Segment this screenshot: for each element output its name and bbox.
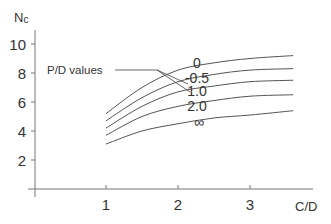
- y-axis-title: Nc: [14, 10, 28, 25]
- x-tick-label: 2: [174, 196, 182, 213]
- curve-label-1.0: 1.0: [187, 83, 207, 99]
- nc-vs-cd-chart: Nc C/D 2 4 6 8 10 1 2 3 P/D value: [0, 0, 331, 224]
- y-tick-label: 8: [18, 65, 26, 82]
- curve-label-2.0: 2.0: [187, 98, 207, 114]
- x-axis-title: C/D: [295, 199, 317, 214]
- legend-title: P/D values: [47, 64, 103, 76]
- y-tick-label: 2: [18, 152, 26, 169]
- y-ticks: 2 4 6 8 10: [9, 36, 35, 169]
- y-tick-label: 4: [18, 123, 26, 140]
- x-tick-label: 1: [102, 196, 110, 213]
- x-tick-label: 3: [246, 196, 254, 213]
- chart-canvas: Nc C/D 2 4 6 8 10 1 2 3 P/D value: [0, 0, 331, 224]
- y-tick-label: 10: [9, 36, 26, 53]
- y-tick-label: 6: [18, 94, 26, 111]
- curve-label-0: 0: [193, 55, 201, 71]
- curve-label-infinity: ∞: [194, 114, 204, 130]
